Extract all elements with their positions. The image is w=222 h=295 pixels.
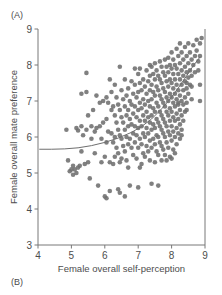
scatter-point (181, 74, 186, 79)
scatter-point (129, 146, 134, 151)
scatter-point (169, 124, 174, 129)
scatter-point (166, 56, 171, 61)
y-tick-label: 9 (26, 24, 32, 35)
scatter-point (176, 54, 181, 59)
scatter-point (143, 102, 148, 107)
scatter-point (178, 122, 183, 127)
scatter-point (166, 84, 171, 89)
scatter-point (109, 131, 114, 136)
x-tick-label: 6 (102, 250, 108, 261)
x-tick-label: 4 (35, 250, 41, 261)
scatter-plot: 3456789456789 Female overall self-percep… (0, 0, 222, 295)
scatter-point (97, 124, 102, 129)
scatter-point (153, 160, 158, 165)
scatter-point (91, 108, 96, 113)
scatter-point (169, 66, 174, 71)
scatter-point (171, 129, 176, 134)
scatter-point (126, 142, 131, 147)
scatter-point (121, 120, 126, 125)
scatter-point (148, 63, 153, 68)
scatter-point (169, 110, 174, 115)
scatter-point (123, 77, 128, 82)
scatter-point (186, 41, 191, 46)
scatter-point (126, 86, 131, 91)
scatter-point (99, 137, 104, 142)
scatter-point (64, 128, 69, 133)
scatter-point (134, 156, 139, 161)
scatter-point (178, 41, 183, 46)
scatter-point (163, 153, 168, 158)
scatter-point (168, 133, 173, 138)
scatter-point (124, 158, 129, 163)
scatter-point (176, 117, 181, 122)
scatter-point (183, 45, 188, 50)
scatter-point (123, 104, 128, 109)
scatter-point (166, 113, 171, 118)
scatter-point (149, 146, 154, 151)
scatter-point (131, 153, 136, 158)
scatter-point (124, 93, 129, 98)
y-axis-title: Female overall mate preference (8, 70, 19, 204)
scatter-point (148, 158, 153, 163)
scatter-point (174, 83, 179, 88)
scatter-point (79, 92, 84, 97)
scatter-point (134, 95, 139, 100)
scatter-point (189, 74, 194, 79)
scatter-point (111, 104, 116, 109)
scatter-point (114, 146, 119, 151)
scatter-point (119, 115, 124, 120)
panel-b-label: (B) (11, 277, 23, 287)
scatter-point (108, 77, 113, 82)
scatter-point (184, 108, 189, 113)
scatter-point (139, 88, 144, 93)
scatter-point (139, 142, 144, 147)
scatter-point (178, 77, 183, 82)
scatter-point (79, 124, 84, 129)
scatter-point (86, 160, 91, 165)
scatter-point (144, 92, 149, 97)
scatter-point (153, 126, 158, 131)
y-tick-label: 6 (26, 132, 32, 143)
scatter-point (143, 155, 148, 160)
scatter-point (153, 61, 158, 66)
scatter-point (156, 88, 161, 93)
scatter-point (173, 77, 178, 82)
scatter-point (116, 102, 121, 107)
scatter-point (153, 77, 158, 82)
scatter-point (128, 137, 133, 142)
scatter-point (144, 126, 149, 131)
scatter-point (79, 149, 84, 154)
scatter-point (111, 140, 116, 145)
scatter-point (178, 61, 183, 66)
scatter-point (181, 57, 186, 62)
scatter-point (104, 117, 109, 122)
scatter-point (114, 95, 119, 100)
scatter-point (74, 171, 79, 176)
scatter-point (136, 72, 141, 77)
scatter-point (113, 83, 118, 88)
scatter-point (133, 66, 138, 71)
scatter-point (94, 93, 99, 98)
scatter-point (84, 90, 89, 95)
scatter-point (179, 133, 184, 138)
scatter-point (116, 151, 121, 156)
scatter-point (183, 95, 188, 100)
scatter-point (111, 162, 116, 167)
scatter-point (176, 72, 181, 77)
scatter-point (163, 74, 168, 79)
scatter-point (174, 126, 179, 131)
scatter-point (183, 65, 188, 70)
scatter-point (89, 124, 94, 129)
scatter-point (184, 86, 189, 91)
scatter-point (171, 72, 176, 77)
y-tick-label: 5 (26, 168, 32, 179)
scatter-point (194, 48, 199, 53)
scatter-point (169, 156, 174, 161)
scatter-point (173, 151, 178, 156)
scatter-point (196, 68, 201, 73)
scatter-point (87, 176, 92, 181)
scatter-point (193, 54, 198, 59)
scatter-point (138, 165, 143, 170)
scatter-point (77, 164, 82, 169)
scatter-point (184, 101, 189, 106)
